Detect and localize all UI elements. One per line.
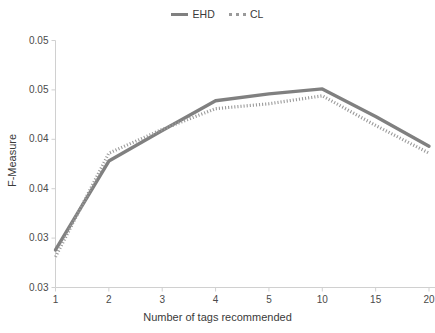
y-tick-label: 0.05	[15, 84, 49, 95]
series-lines	[56, 89, 430, 257]
y-tick-label: 0.04	[15, 183, 49, 194]
y-tick-label: 0.03	[15, 232, 49, 243]
series-line-cl	[56, 96, 430, 257]
x-tick-label: 3	[148, 294, 176, 305]
x-axis-title: Number of tags recommended	[0, 311, 435, 324]
x-tick-label: 20	[415, 294, 435, 305]
x-tick-label: 15	[362, 294, 390, 305]
series-line-ehd	[56, 89, 430, 250]
f-measure-line-chart: EHD CL 0.050.050.040.040.030.03 12345101…	[0, 0, 435, 333]
y-tick-label: 0.03	[15, 282, 49, 293]
x-tick-label: 2	[95, 294, 123, 305]
x-tick-label: 10	[308, 294, 336, 305]
y-axis-title: F-Measure	[6, 116, 19, 206]
x-tick-label: 5	[255, 294, 283, 305]
x-tick-label: 4	[202, 294, 230, 305]
y-tick-label: 0.04	[15, 133, 49, 144]
axis-lines	[52, 41, 435, 292]
plot-svg	[0, 0, 435, 333]
x-tick-label: 1	[42, 294, 70, 305]
plot-area: 0.050.050.040.040.030.03 12345101520	[0, 0, 435, 333]
y-tick-label: 0.05	[15, 35, 49, 46]
